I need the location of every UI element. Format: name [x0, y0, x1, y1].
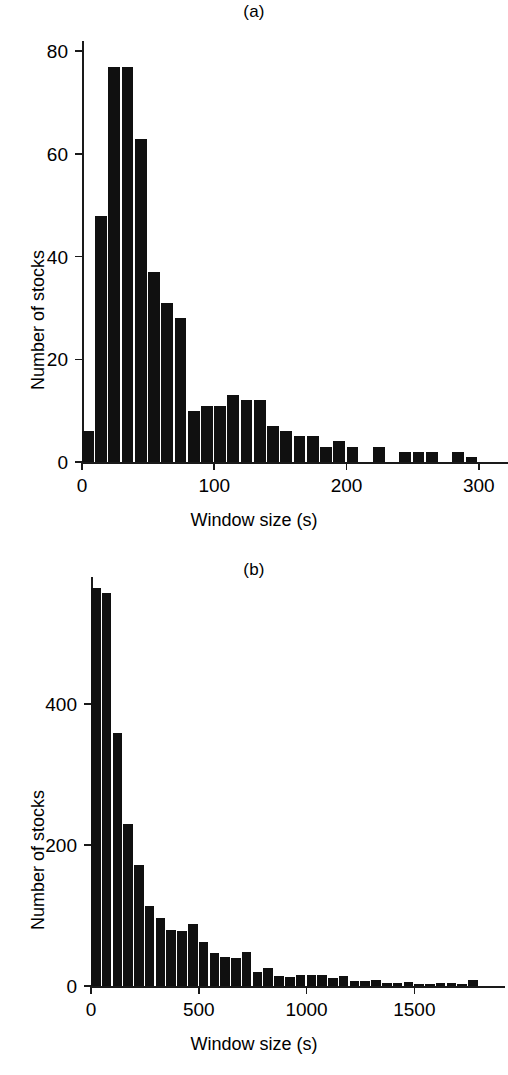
panel-a-x-tick-label: 100	[198, 476, 230, 495]
histogram-bar	[95, 216, 107, 462]
panel-a-y-tick	[75, 359, 82, 361]
panel-b-y-tick-label: 400	[45, 694, 77, 713]
histogram-bar	[102, 593, 112, 986]
histogram-bar	[148, 272, 160, 462]
panel-a-y-tick	[75, 50, 82, 52]
panel-a-x-tick-label: 300	[463, 476, 495, 495]
histogram-bar	[393, 983, 403, 986]
panel-a-x-tick	[478, 462, 480, 470]
histogram-bar	[91, 588, 101, 986]
panel-b-x-tick	[306, 986, 308, 994]
panel-b-x-tick-label: 1500	[393, 1000, 435, 1019]
histogram-bar	[166, 930, 176, 986]
panel-a-y-tick	[75, 153, 82, 155]
figure-container: (a) 0204060800100200300 Window size (s) …	[0, 0, 508, 1075]
panel-a-y-tick-label: 40	[47, 247, 68, 266]
histogram-bar	[307, 436, 319, 462]
panel-b-y-tick-label: 0	[66, 977, 77, 996]
panel-a-x-tick	[213, 462, 215, 470]
panel-b-x-tick	[198, 986, 200, 994]
histogram-bar	[227, 395, 239, 462]
panel-a-label: (a)	[0, 2, 508, 22]
panel-a-y-tick	[75, 256, 82, 258]
histogram-bar	[253, 972, 263, 986]
panel-b: (b) 0200400050010001500 Window size (s) …	[0, 535, 508, 1075]
histogram-bar	[294, 436, 306, 462]
histogram-bar	[267, 426, 279, 462]
panel-b-plot-area: 0200400050010001500	[91, 577, 479, 986]
histogram-bar	[307, 975, 317, 986]
panel-a-y-tick-label: 0	[57, 453, 68, 472]
histogram-bar	[320, 447, 332, 462]
histogram-bar	[317, 975, 327, 986]
histogram-bar	[210, 953, 220, 986]
histogram-bar	[296, 975, 306, 986]
histogram-bar	[339, 976, 349, 986]
histogram-bar	[468, 980, 478, 986]
histogram-bar	[347, 447, 359, 462]
histogram-bar	[466, 457, 478, 462]
panel-a-x-axis-line	[82, 462, 508, 464]
panel-a-x-tick-label: 0	[77, 476, 88, 495]
histogram-bar	[220, 957, 230, 986]
histogram-bar	[134, 865, 144, 986]
histogram-bar	[177, 931, 187, 986]
histogram-bar	[175, 318, 187, 462]
histogram-bar	[274, 976, 284, 986]
histogram-bar	[280, 431, 292, 462]
histogram-bar	[145, 906, 155, 986]
panel-b-x-tick-label: 1000	[285, 1000, 327, 1019]
histogram-bar	[426, 452, 438, 462]
histogram-bar	[123, 824, 133, 986]
panel-a-x-tick-label: 200	[331, 476, 363, 495]
histogram-bar	[436, 983, 446, 986]
histogram-bar	[452, 452, 464, 462]
histogram-bar	[122, 67, 134, 462]
histogram-bar	[263, 968, 273, 986]
panel-b-x-tick-label: 500	[183, 1000, 215, 1019]
histogram-bar	[214, 406, 226, 462]
histogram-bar	[285, 977, 295, 986]
histogram-bar	[231, 958, 241, 986]
panel-b-x-tick-label: 0	[86, 1000, 97, 1019]
histogram-bar	[156, 918, 166, 986]
histogram-bar	[373, 447, 385, 462]
histogram-bar	[241, 400, 253, 462]
histogram-bar	[161, 303, 173, 462]
histogram-bar	[399, 452, 411, 462]
panel-a: (a) 0204060800100200300 Window size (s) …	[0, 0, 508, 535]
histogram-bar	[108, 67, 120, 462]
panel-b-x-axis-line	[91, 986, 505, 988]
histogram-bar	[135, 139, 147, 462]
histogram-bar	[82, 431, 94, 462]
panel-b-y-tick	[84, 844, 91, 846]
histogram-bar	[254, 400, 266, 462]
histogram-bar	[333, 441, 345, 462]
histogram-bar	[350, 981, 360, 986]
panel-a-y-tick-label: 80	[47, 42, 68, 61]
histogram-bar	[457, 984, 467, 986]
histogram-bar	[201, 406, 213, 462]
histogram-bar	[242, 952, 252, 986]
panel-a-x-tick	[81, 462, 83, 470]
histogram-bar	[188, 924, 198, 986]
histogram-bar	[425, 984, 435, 986]
histogram-bar	[447, 983, 457, 986]
histogram-bar	[404, 982, 414, 986]
panel-a-plot-area: 0204060800100200300	[82, 41, 492, 462]
panel-b-x-tick	[414, 986, 416, 994]
panel-a-y-axis-line	[82, 41, 84, 462]
panel-b-y-tick	[84, 703, 91, 705]
histogram-bar	[360, 981, 370, 986]
histogram-bar	[328, 978, 338, 986]
histogram-bar	[188, 411, 200, 462]
histogram-bar	[413, 452, 425, 462]
histogram-bar	[414, 984, 424, 986]
histogram-bar	[199, 942, 209, 986]
histogram-bar	[371, 980, 381, 986]
panel-a-x-axis-title: Window size (s)	[0, 510, 508, 531]
panel-a-y-tick-label: 20	[47, 350, 68, 369]
panel-b-x-axis-title: Window size (s)	[0, 1034, 508, 1055]
histogram-bar	[113, 733, 123, 986]
panel-b-y-axis-title: Number of stocks	[28, 790, 49, 930]
